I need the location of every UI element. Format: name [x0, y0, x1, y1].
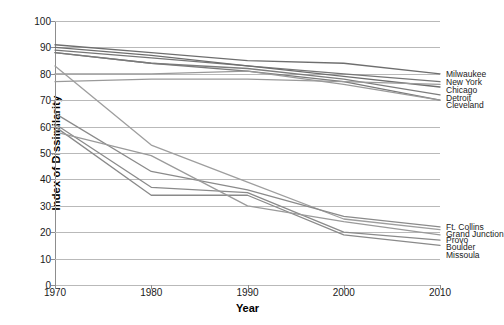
plot-area: 0102030405060708090100 19701980199020002…	[55, 21, 440, 285]
y-tick-label: 30	[40, 200, 51, 211]
y-tick-label: 100	[34, 16, 51, 27]
y-tick-label: 80	[40, 68, 51, 79]
x-tick-mark	[151, 285, 152, 289]
y-axis-title-wrap: Index of Dissimilarity	[0, 21, 18, 285]
x-tick-mark	[344, 285, 345, 289]
y-tick-label: 20	[40, 227, 51, 238]
series-line	[55, 132, 440, 235]
x-tick-mark	[248, 285, 249, 289]
series-line	[55, 79, 440, 84]
y-tick-label: 60	[40, 121, 51, 132]
series-line	[55, 127, 440, 246]
y-tick-label: 90	[40, 42, 51, 53]
y-tick-label: 10	[40, 253, 51, 264]
x-tick-mark	[440, 285, 441, 289]
y-tick-label: 50	[40, 148, 51, 159]
series-line	[55, 113, 440, 227]
y-tick-label: 40	[40, 174, 51, 185]
y-tick-label: 70	[40, 95, 51, 106]
x-tick-mark	[55, 285, 56, 289]
series-label: Cleveland	[446, 101, 484, 110]
series-label: Missoula	[446, 251, 480, 260]
series-lines	[55, 21, 440, 285]
x-axis-title: Year	[55, 302, 440, 314]
